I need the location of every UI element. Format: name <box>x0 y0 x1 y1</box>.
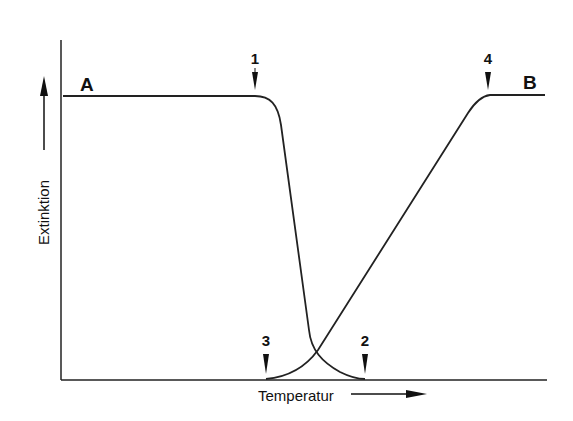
curve-b-label: B <box>523 72 537 93</box>
marker-3-arrow-icon <box>263 354 269 374</box>
marker-2-arrow-icon <box>362 354 368 374</box>
y-arrow-icon <box>40 76 48 96</box>
marker-3-label: 3 <box>262 332 270 349</box>
marker-4-arrow-icon <box>485 72 491 90</box>
marker-2-label: 2 <box>361 332 369 349</box>
curve-b <box>266 95 545 379</box>
y-axis-label: Extinktion <box>35 180 52 245</box>
x-arrow-icon <box>406 390 427 398</box>
x-axis-label: Temperatur <box>258 387 334 404</box>
marker-1-arrow-icon <box>252 72 258 90</box>
diagram: A B 1 4 3 2 Temperatur Extinktion <box>0 0 573 421</box>
marker-4-label: 4 <box>484 50 493 67</box>
marker-1-label: 1 <box>251 50 259 67</box>
curve-a-label: A <box>80 74 94 95</box>
curve-a <box>63 96 365 379</box>
